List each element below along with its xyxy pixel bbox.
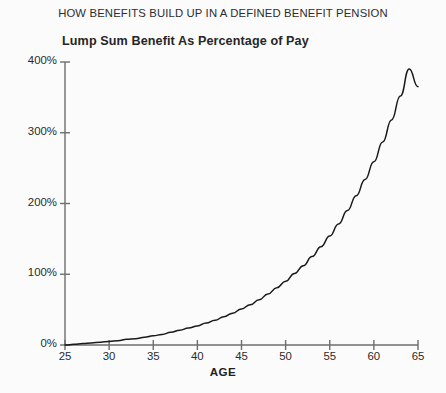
x-tick-label: 60 <box>354 350 394 362</box>
y-tick-label: 400% <box>9 54 57 66</box>
y-tick-label: 200% <box>9 196 57 208</box>
x-tick-label: 30 <box>89 350 129 362</box>
chart-figure: HOW BENEFITS BUILD UP IN A DEFINED BENEF… <box>0 0 446 393</box>
axes <box>65 62 418 345</box>
x-tick-label: 45 <box>222 350 262 362</box>
x-tick-label: 25 <box>45 350 85 362</box>
x-tick-label: 35 <box>133 350 173 362</box>
y-tick-label: 100% <box>9 266 57 278</box>
x-tick-label: 65 <box>398 350 438 362</box>
x-tick-label: 40 <box>177 350 217 362</box>
y-tick-label: 300% <box>9 125 57 137</box>
plot-area <box>0 0 446 393</box>
x-tick-label: 50 <box>266 350 306 362</box>
y-tick-label: 0% <box>9 337 57 349</box>
x-tick-label: 55 <box>310 350 350 362</box>
x-axis-title: AGE <box>0 365 446 378</box>
chart-svg <box>0 0 446 393</box>
benefit-accrual-curve <box>65 69 418 345</box>
